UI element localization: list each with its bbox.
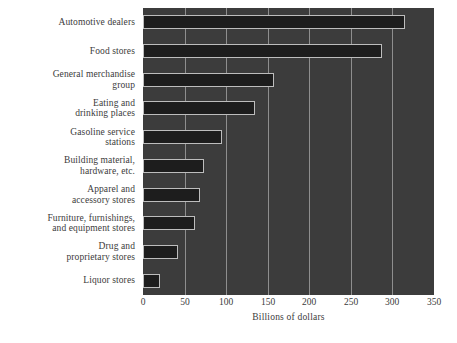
bar-chart: Automotive dealersFood storesGeneral mer… xyxy=(0,0,457,343)
category-label-line: drinking places xyxy=(0,108,135,119)
bar xyxy=(143,130,222,144)
category-label-line: and equipment stores xyxy=(0,223,135,234)
category-label-line: Food stores xyxy=(0,46,135,57)
bar xyxy=(143,44,382,58)
bar xyxy=(143,73,274,87)
category-label: Liquor stores xyxy=(0,275,135,286)
category-label: Apparel andaccessory stores xyxy=(0,184,135,205)
category-label-line: General merchandise xyxy=(0,69,135,80)
category-label: Drug andproprietary stores xyxy=(0,241,135,262)
x-tick-label: 350 xyxy=(427,296,441,308)
category-label-line: Gasoline service xyxy=(0,127,135,138)
gridline xyxy=(392,8,393,295)
bar xyxy=(143,245,178,259)
category-label-line: group xyxy=(0,80,135,91)
x-tick-label: 100 xyxy=(219,296,233,308)
x-tick-label: 250 xyxy=(344,296,358,308)
x-tick-label: 0 xyxy=(141,296,146,308)
x-tick-label: 50 xyxy=(180,296,190,308)
category-label-line: accessory stores xyxy=(0,195,135,206)
bar xyxy=(143,101,255,115)
category-label-line: Furniture, furnishings, xyxy=(0,213,135,224)
x-tick-label: 150 xyxy=(261,296,275,308)
plot-area xyxy=(143,8,434,295)
category-label-line: stations xyxy=(0,137,135,148)
x-tick-label: 300 xyxy=(385,296,399,308)
category-label: Food stores xyxy=(0,46,135,57)
category-label: Eating anddrinking places xyxy=(0,98,135,119)
category-label: Automotive dealers xyxy=(0,17,135,28)
category-label-line: Apparel and xyxy=(0,184,135,195)
bar xyxy=(143,216,195,230)
category-label-line: Building material, xyxy=(0,155,135,166)
bar xyxy=(143,159,204,173)
x-axis-title: Billions of dollars xyxy=(143,312,434,322)
category-label-line: Drug and xyxy=(0,241,135,252)
x-tick-label: 200 xyxy=(302,296,316,308)
category-label-line: Automotive dealers xyxy=(0,17,135,28)
category-label: Building material,hardware, etc. xyxy=(0,155,135,176)
category-label-line: hardware, etc. xyxy=(0,166,135,177)
bar xyxy=(143,188,200,202)
category-label-line: proprietary stores xyxy=(0,252,135,263)
x-axis-tick-labels: 050100150200250300350 xyxy=(143,296,434,310)
category-label: General merchandisegroup xyxy=(0,69,135,90)
category-label-line: Liquor stores xyxy=(0,275,135,286)
bar xyxy=(143,274,160,288)
category-label-line: Eating and xyxy=(0,98,135,109)
category-label: Gasoline servicestations xyxy=(0,127,135,148)
category-label: Furniture, furnishings,and equipment sto… xyxy=(0,213,135,234)
category-axis-labels: Automotive dealersFood storesGeneral mer… xyxy=(0,8,139,294)
bar xyxy=(143,15,405,29)
